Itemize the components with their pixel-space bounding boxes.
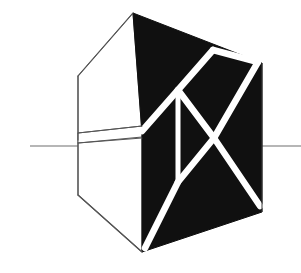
geometric-figure bbox=[0, 0, 301, 273]
figure-canvas: Folded Polyhedral Form with Diagonal Bra… bbox=[0, 0, 301, 273]
